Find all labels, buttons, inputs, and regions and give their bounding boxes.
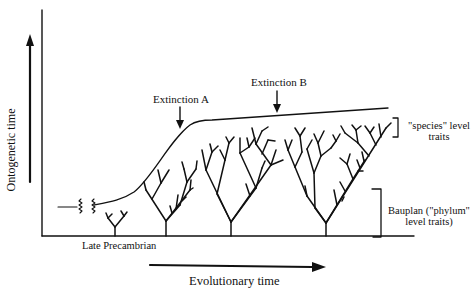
bauplan-traits-line1: Bauplan ("phylum" [383,205,475,216]
diagram-canvas [0,0,476,294]
ontogenetic-arrow-icon [26,34,34,182]
species-traits-label: "species" level traits [402,120,476,142]
bauplan-traits-bracket [372,189,381,237]
extinction-b-label: Extinction B [251,76,307,88]
species-traits-bracket [393,118,398,137]
bauplan-traits-line2: level traits) [383,216,475,227]
species-traits-line1: "species" level [402,120,476,131]
extinction-a-arrow-icon [176,107,184,129]
squiggle-icon [79,199,82,213]
clade-2-tree [202,127,283,236]
clade-3-tree [285,123,391,236]
extinction-b-arrow-icon [273,91,281,113]
evolutionary-arrow-icon [150,262,326,272]
bauplan-traits-label: Bauplan ("phylum" level traits) [383,205,475,227]
x-axis-label: Evolutionary time [189,275,280,287]
precambrian-sprig-tree [106,211,127,236]
squiggle-icon [92,199,95,213]
y-axis-label: Ontogenetic time [4,80,19,220]
species-traits-line2: traits [402,131,476,142]
extinction-a-label: Extinction A [153,93,209,105]
late-precambrian-label: Late Precambrian [82,240,156,252]
